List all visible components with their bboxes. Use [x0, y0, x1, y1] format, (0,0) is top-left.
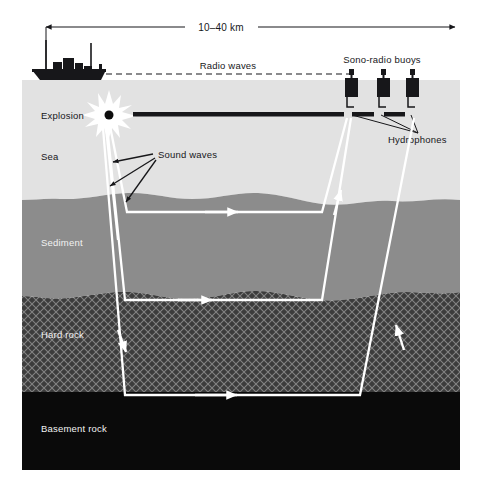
seismic-survey-figure: 10–40 km Radio waves Sono-radio buoys — [0, 0, 482, 483]
ship-deck — [32, 69, 106, 72]
streamer-cable-seg-3 — [384, 112, 405, 117]
sono-radio-buoys-label: Sono-radio buoys — [343, 54, 421, 65]
hydrophones-label: Hydrophones — [388, 134, 447, 145]
layer-label-basement-rock: Basement rock — [41, 423, 107, 434]
ship-funnel — [75, 63, 83, 70]
explosion-charge-dot — [105, 111, 114, 120]
streamer-cable-main — [133, 112, 344, 117]
buoy-1-mast — [351, 74, 353, 78]
ship-bridge — [63, 58, 74, 70]
layer-sediment-fill — [22, 185, 460, 305]
layer-label-hard-rock: Hard rock — [41, 329, 84, 340]
radio-waves-label: Radio waves — [200, 60, 257, 71]
explosion-label: Explosion — [41, 110, 84, 121]
ship-deckhouse-fore — [53, 62, 62, 70]
sound-waves-label: Sound waves — [158, 149, 217, 160]
layer-label-sea: Sea — [41, 151, 59, 162]
buoy-1-float — [345, 78, 358, 97]
scale-bar-label: 10–40 km — [198, 22, 244, 33]
layer-hard-rock-fill — [22, 285, 460, 395]
buoy-3-mast — [412, 74, 414, 78]
buoy-2-float — [377, 78, 390, 97]
buoy-3-float — [406, 78, 419, 97]
buoy-2-mast — [383, 74, 385, 78]
layer-label-sediment: Sediment — [41, 237, 83, 248]
